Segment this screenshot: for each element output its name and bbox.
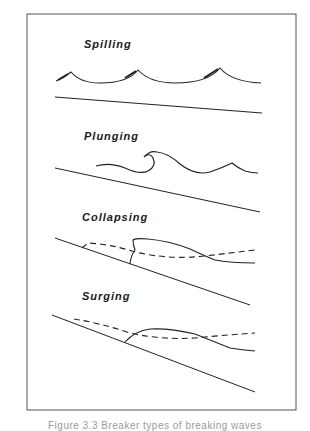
surging-wave: [125, 329, 255, 351]
spilling-seabed: [55, 97, 262, 113]
plunging-wave: [96, 152, 258, 173]
spilling-wave: [56, 68, 261, 83]
plunging-seabed: [55, 168, 260, 212]
spilling-foam-3: [204, 69, 218, 78]
plunging-panel: [55, 152, 260, 212]
surging-panel: [52, 315, 255, 392]
figure-caption: Figure 3.3 Breaker types of breaking wav…: [48, 420, 262, 431]
spilling-label: Spilling: [84, 38, 132, 50]
spilling-foam-1: [58, 74, 68, 80]
spilling-panel: [55, 68, 262, 113]
surging-label: Surging: [82, 290, 131, 302]
collapsing-label: Collapsing: [82, 211, 148, 223]
surging-beach: [52, 315, 255, 392]
collapsing-wave: [130, 239, 255, 264]
collapsing-still-water-line: [82, 243, 255, 257]
plunging-label: Plunging: [84, 130, 139, 142]
